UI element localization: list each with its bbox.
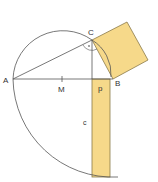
kathetensatz-diagram: A B C M p c [0,0,158,182]
label-m: M [58,85,65,94]
right-angle-dot [88,45,90,47]
label-c-vertex: C [88,28,94,37]
label-p: p [98,84,103,93]
label-a: A [3,76,9,85]
rectangle-p-c [92,79,110,177]
segment-ac [13,40,92,79]
label-c-side: c [83,119,87,126]
label-b: B [115,79,120,88]
square-on-cb [92,22,148,79]
